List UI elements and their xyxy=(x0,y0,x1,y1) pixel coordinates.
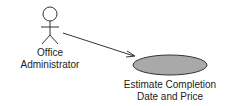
actor-label: Office Administrator xyxy=(0,47,100,71)
use-case-ellipse xyxy=(133,55,207,75)
actor-name-line2: Administrator xyxy=(0,59,100,71)
use-case-label: Estimate Completion Date and Price xyxy=(112,79,228,103)
use-case-name-line2: Date and Price xyxy=(112,91,228,103)
actor-figure-icon xyxy=(41,7,59,44)
actor-name-line1: Office xyxy=(0,47,100,59)
use-case-diagram: Office Administrator Estimate Completion… xyxy=(0,0,235,106)
use-case-name-line1: Estimate Completion xyxy=(112,79,228,91)
